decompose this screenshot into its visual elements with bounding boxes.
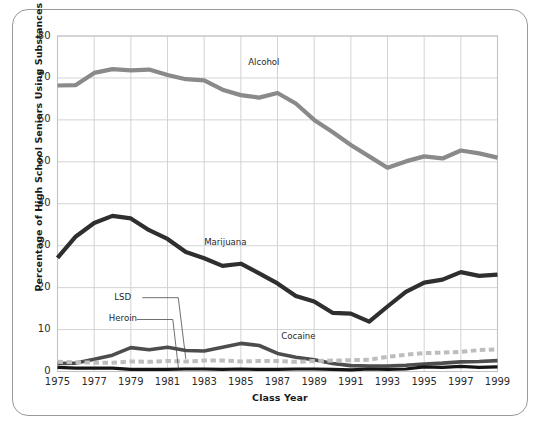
y-axis-title: Percentage of High School Seniors Using …: [33, 92, 44, 292]
series-label-alcohol: Alcohol: [248, 57, 279, 67]
y-tick-label: 0: [25, 365, 51, 376]
x-tick-label: 1975: [38, 376, 78, 387]
x-tick-label: 1991: [331, 376, 371, 387]
x-tick-label: 1995: [404, 376, 444, 387]
x-tick-label: 1985: [221, 376, 261, 387]
x-tick-label: 1979: [111, 376, 151, 387]
x-axis-title: Class Year: [180, 392, 380, 403]
x-tick-label: 1997: [441, 376, 481, 387]
chart-page: 0102030405060708019751977197919811983198…: [0, 0, 543, 431]
x-tick-label: 1989: [294, 376, 334, 387]
leader-lines: [137, 298, 186, 369]
y-tick-label: 10: [25, 323, 51, 334]
x-tick-label: 1987: [258, 376, 298, 387]
x-tick-label: 1999: [478, 376, 518, 387]
series-label-lsd: LSD: [114, 292, 131, 302]
x-tick-label: 1993: [368, 376, 408, 387]
series-label-cocaine: Cocaine: [281, 331, 315, 341]
series-label-heroin: Heroin: [109, 313, 137, 323]
x-tick-label: 1981: [148, 376, 188, 387]
x-tick-label: 1983: [184, 376, 224, 387]
series-label-marijuana: Marijuana: [204, 237, 246, 247]
x-tick-label: 1977: [74, 376, 114, 387]
